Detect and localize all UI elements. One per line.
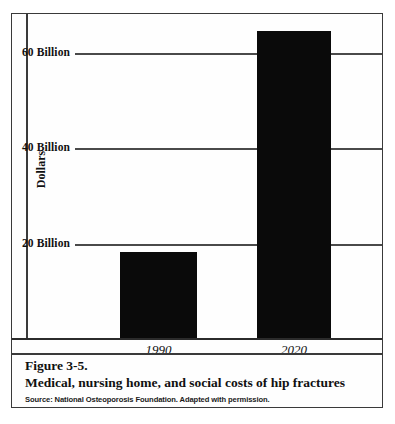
figure-source-note: Source: National Osteoporosis Foundation… (25, 395, 375, 404)
x-tick-label-1990: 1990 (120, 342, 197, 358)
y-tick-label-20-billion: 20 Billion (22, 237, 78, 249)
x-axis-line (12, 338, 382, 340)
gridline-60-billion (75, 53, 382, 55)
gridline-40-billion (75, 148, 382, 150)
y-axis-line (26, 14, 28, 340)
figure-title: Medical, nursing home, and social costs … (25, 375, 375, 392)
y-axis-title: Dollars (34, 135, 49, 205)
figure-frame: 60 Billion 40 Billion 20 Billion Dollars… (11, 13, 383, 408)
figure-caption: Figure 3-5. Medical, nursing home, and s… (25, 358, 375, 404)
y-tick-label-60-billion: 60 Billion (22, 46, 78, 58)
bar-1990 (120, 252, 197, 338)
bar-2020 (257, 31, 331, 338)
caption-divider (12, 353, 382, 355)
gridline-20-billion (75, 244, 382, 246)
x-tick-label-2020: 2020 (257, 342, 331, 358)
figure-number: Figure 3-5. (25, 358, 375, 375)
chart-plot-area: 60 Billion 40 Billion 20 Billion Dollars… (12, 14, 382, 340)
y-tick-label-40-billion: 40 Billion (22, 141, 78, 153)
